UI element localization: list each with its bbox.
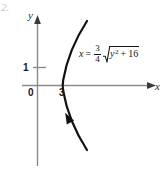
radicand-plus-sign: + xyxy=(121,48,127,59)
equation-radical: y 2 + 16 xyxy=(103,46,139,63)
math-figure-panel: 2. y x 1 0 3 x = 3 4 xyxy=(0,0,166,170)
x-intercept-label-3: 3 xyxy=(59,88,65,98)
equation-equals-sign: = xyxy=(85,49,91,59)
radicand-expression: y 2 + 16 xyxy=(109,46,139,63)
origin-label: 0 xyxy=(28,88,34,98)
equation-fraction: 3 4 xyxy=(94,44,101,64)
radicand-constant: 16 xyxy=(128,48,138,59)
radicand-exponent: 2 xyxy=(115,49,119,56)
y-axis-label: y xyxy=(28,10,33,21)
graph-canvas xyxy=(0,0,166,170)
equation-lhs: x xyxy=(79,49,83,59)
up-arrow-icon xyxy=(34,15,41,24)
x-axis-label: x xyxy=(155,81,160,92)
y-tick-label-1: 1 xyxy=(23,63,29,73)
radicand-variable: y xyxy=(110,48,114,59)
fraction-numerator: 3 xyxy=(94,44,101,53)
curve-equation-label: x = 3 4 y 2 + 16 xyxy=(79,44,139,64)
fraction-denominator: 4 xyxy=(94,55,101,64)
